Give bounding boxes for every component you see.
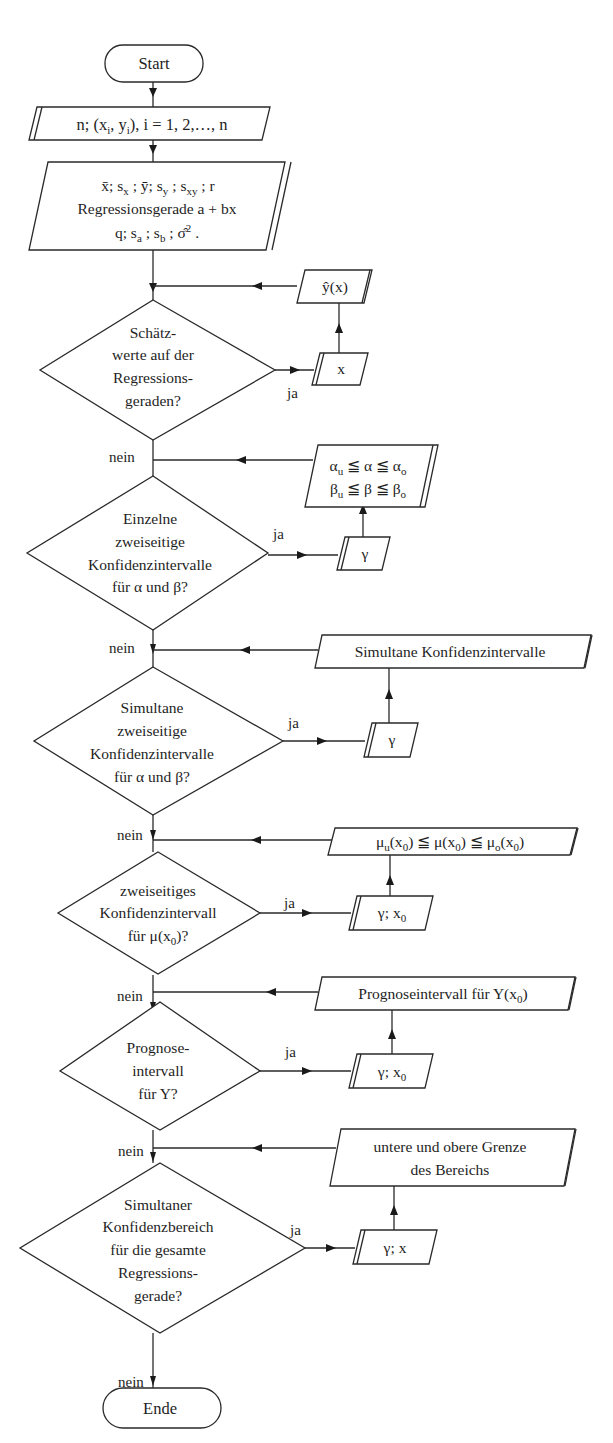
yes-label-6: ja bbox=[289, 1222, 301, 1238]
input-data-label: n; (xi, yi), i = 1, 2,…, n bbox=[76, 115, 227, 136]
decision-schaetzwerte: Schätz- werte auf der Regressions- gerad… bbox=[40, 300, 298, 440]
decision-2-line-3: Konfidenzintervalle bbox=[88, 556, 212, 573]
input-x-label: x bbox=[337, 360, 345, 377]
input-gamma-x-label: γ; x bbox=[383, 1239, 407, 1256]
start-label: Start bbox=[138, 54, 170, 73]
yes-label-3: ja bbox=[287, 715, 299, 731]
output-yhat-label: ŷ(x) bbox=[322, 278, 348, 296]
no-label-2: nein bbox=[109, 640, 135, 656]
decision-6-line-5: gerade? bbox=[134, 1287, 182, 1304]
input-data-box: n; (xi, yi), i = 1, 2,…, n bbox=[29, 107, 270, 140]
decision-konfidenzbereich: Simultaner Konfidenzbereich für die gesa… bbox=[20, 1163, 305, 1333]
yes-label-1: ja bbox=[286, 385, 298, 401]
output-grenze-line-1: untere und obere Grenze bbox=[374, 1138, 527, 1155]
decision-simultane-ki: Simultane zweiseitige Konfidenzintervall… bbox=[34, 667, 299, 815]
output-statistics-box: x̄; sx ; ȳ; sy ; sxy ; r Regressionsgera… bbox=[29, 162, 291, 250]
no-label-1: nein bbox=[109, 449, 135, 465]
start-terminal: Start bbox=[105, 45, 203, 82]
decision-3-line-3: Konfidenzintervalle bbox=[90, 745, 214, 762]
decision-3-line-2: zweiseitige bbox=[117, 722, 187, 739]
decision-4-line-2: Konfidenzintervall bbox=[99, 904, 216, 921]
input-gamma-1-label: γ bbox=[361, 545, 369, 562]
no-label-5: nein bbox=[118, 1143, 144, 1159]
regression-flowchart: Start n; (xi, yi), i = 1, 2,…, n x̄; sx … bbox=[0, 0, 613, 1443]
decision-6-line-4: Regressions- bbox=[118, 1264, 198, 1281]
output-simultane-ki-label: Simultane Konfidenzintervalle bbox=[355, 643, 546, 660]
decision-2-line-4: für α und β? bbox=[112, 578, 188, 595]
decision-prognose: Prognose- intervall für Y? ja bbox=[60, 1002, 296, 1130]
decision-6-line-1: Simultaner bbox=[124, 1196, 193, 1213]
decision-2-line-1: Einzelne bbox=[123, 510, 177, 527]
end-terminal: Ende bbox=[103, 1388, 221, 1428]
decision-einzelne-ki: Einzelne zweiseitige Konfidenzintervalle… bbox=[27, 476, 284, 630]
decision-1-line-3: Regressions- bbox=[113, 369, 193, 386]
decision-2-line-2: zweiseitige bbox=[115, 533, 185, 550]
no-label-3: nein bbox=[117, 827, 143, 843]
input-gamma-2-label: γ bbox=[388, 731, 396, 748]
yes-label-5: ja bbox=[284, 1044, 296, 1060]
decision-4-line-1: zweiseitiges bbox=[120, 882, 196, 899]
decision-6-line-2: Konfidenzbereich bbox=[102, 1218, 213, 1235]
no-label-4: nein bbox=[117, 988, 143, 1004]
decision-1-line-2: werte auf der bbox=[112, 346, 195, 363]
stats-line-2: Regressionsgerade a + bx bbox=[78, 200, 237, 217]
decision-ki-mu: zweiseitiges Konfidenzintervall für μ(x0… bbox=[58, 852, 295, 974]
decision-1-line-4: geraden? bbox=[125, 392, 181, 409]
decision-1-line-1: Schätz- bbox=[130, 324, 176, 341]
output-grenze-line-2: des Bereichs bbox=[411, 1161, 490, 1178]
decision-5-line-3: für Y? bbox=[138, 1085, 178, 1102]
decision-5-line-1: Prognose- bbox=[127, 1039, 190, 1056]
decision-3-line-1: Simultane bbox=[121, 699, 184, 716]
yes-label-2: ja bbox=[272, 526, 284, 542]
decision-6-line-3: für die gesamte bbox=[110, 1241, 206, 1258]
yes-label-4: ja bbox=[283, 895, 295, 911]
decision-3-line-4: für α und β? bbox=[114, 768, 190, 785]
decision-5-line-2: intervall bbox=[132, 1062, 184, 1079]
end-label: Ende bbox=[143, 1399, 177, 1418]
